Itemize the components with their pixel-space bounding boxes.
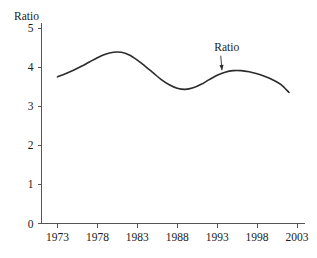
x-axis: 1973197819831988199319982003: [42, 224, 309, 243]
x-tick-label: 1988: [166, 231, 189, 243]
ratio-series-line: [57, 52, 289, 93]
ratio-line-chart: 012345 1973197819831988199319982003 Rati…: [0, 0, 317, 258]
x-tick-label: 1993: [206, 231, 229, 243]
x-tick-label: 1978: [86, 231, 109, 243]
y-tick-label: 1: [28, 178, 34, 190]
annotation-label: Ratio: [214, 41, 239, 53]
y-tick-label: 2: [28, 139, 34, 151]
y-tick-group: 012345: [28, 22, 42, 230]
y-tick-label: 0: [28, 218, 34, 230]
series-annotation: Ratio: [214, 41, 239, 71]
x-tick-group: 1973197819831988199319982003: [46, 224, 309, 243]
y-tick-label: 4: [28, 61, 34, 73]
x-tick-label: 1983: [126, 231, 149, 243]
chart-canvas: 012345 1973197819831988199319982003 Rati…: [0, 0, 317, 258]
x-tick-label: 2003: [286, 231, 309, 243]
x-tick-label: 1998: [246, 231, 269, 243]
x-tick-label: 1973: [46, 231, 69, 243]
y-tick-label: 3: [28, 100, 34, 112]
y-axis-label: Ratio: [14, 10, 39, 22]
y-tick-label: 5: [28, 22, 34, 34]
y-axis: 012345: [28, 22, 42, 230]
